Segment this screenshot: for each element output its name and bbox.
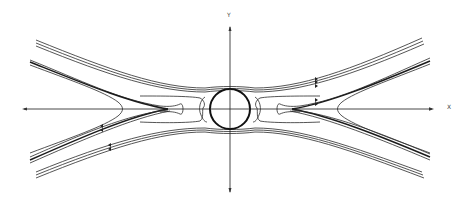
flow-arrows <box>100 77 318 151</box>
x-axis-right-arrowhead-icon <box>429 107 434 110</box>
lower-left-separatrix-band <box>30 109 170 163</box>
y-axis-top-arrowhead-icon <box>229 26 232 31</box>
flow-arrow-icon <box>108 143 111 147</box>
flow-arrow-icon <box>315 98 318 102</box>
x-axis-left-arrowhead-icon <box>22 108 27 111</box>
y-axis-label: Y <box>226 11 231 18</box>
y-axis-bottom-arrowhead-icon <box>229 188 232 193</box>
flow-arrow-icon <box>100 128 103 132</box>
streamline-diagram: X Y <box>0 0 476 203</box>
upper-left-separatrix-band <box>30 60 183 153</box>
x-axis-label: X <box>447 103 451 110</box>
flow-arrow-icon <box>315 84 318 88</box>
